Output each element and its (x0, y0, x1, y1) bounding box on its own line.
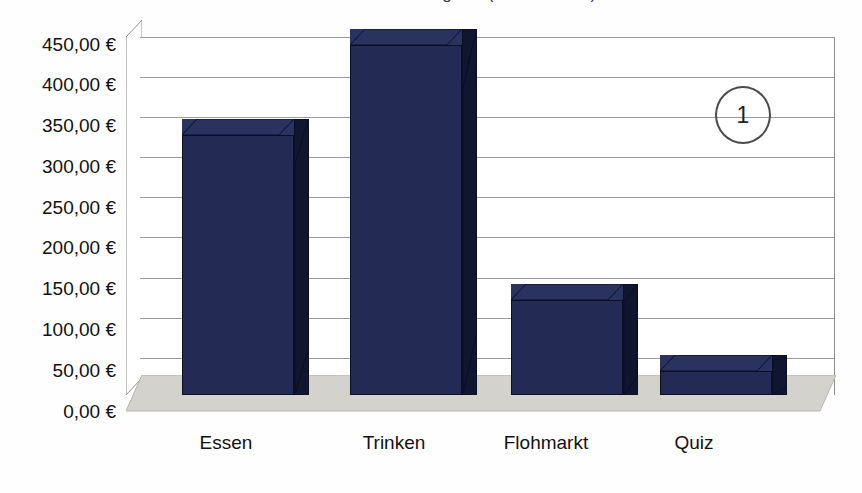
bar-quiz[interactable] (660, 355, 772, 395)
annotation-callout-1: 1 (715, 86, 771, 144)
bar-chart: Einnahmen nach Kategorie (Sommerfest) 45… (0, 0, 862, 493)
bar-side-face (294, 119, 309, 395)
bar-side-face (623, 284, 638, 395)
y-tick-label: 400,00 € (42, 74, 116, 96)
x-tick-label-essen: Essen (200, 432, 253, 454)
plot-area: 1 (126, 20, 836, 420)
y-axis-labels: 450,00 € 400,00 € 350,00 € 300,00 € 250,… (0, 0, 122, 493)
gridline-400 (140, 77, 834, 78)
bar-top-face (660, 355, 772, 371)
x-tick-label-quiz: Quiz (674, 432, 713, 454)
y-tick-label: 200,00 € (42, 237, 116, 259)
bar-trinken[interactable] (350, 29, 462, 395)
y-tick-label: 450,00 € (42, 34, 116, 56)
y-tick-label: 150,00 € (42, 278, 116, 300)
y-tick-label: 350,00 € (42, 115, 116, 137)
chart-title-cropped: Einnahmen nach Kategorie (Sommerfest) (0, 0, 862, 14)
bar-side-face (772, 355, 787, 395)
bar-side-face (462, 29, 477, 395)
bar-front-face (660, 371, 772, 395)
bar-flohmarkt[interactable] (511, 284, 623, 395)
x-tick-label-flohmarkt: Flohmarkt (504, 432, 588, 454)
gridline-450 (140, 37, 834, 38)
x-axis-labels: Essen Trinken Flohmarkt Quiz (0, 432, 862, 472)
y-tick-label: 300,00 € (42, 156, 116, 178)
annotation-callout-1-label: 1 (737, 102, 750, 129)
bar-top-face (350, 29, 462, 45)
bar-top-face (511, 284, 623, 300)
bar-front-face (182, 135, 294, 395)
bar-essen[interactable] (182, 119, 294, 395)
bar-top-face (182, 119, 294, 135)
bar-front-face (511, 300, 623, 395)
bar-front-face (350, 45, 462, 395)
y-tick-label: 250,00 € (42, 197, 116, 219)
y-tick-label: 50,00 € (53, 360, 116, 382)
chart-title: Einnahmen nach Kategorie (Sommerfest) (0, 0, 862, 4)
y-tick-label: 100,00 € (42, 319, 116, 341)
y-tick-label: 0,00 € (63, 401, 116, 423)
x-tick-label-trinken: Trinken (363, 432, 426, 454)
